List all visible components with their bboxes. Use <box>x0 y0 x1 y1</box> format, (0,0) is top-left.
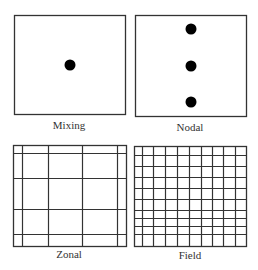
panel-mixing <box>15 16 126 115</box>
mixing-node-dot <box>65 60 76 71</box>
label-mixing: Mixing <box>53 119 86 131</box>
field-box <box>135 147 247 247</box>
nodal-node-dot <box>186 61 197 72</box>
label-zonal: Zonal <box>56 248 82 260</box>
diagram-canvas: Mixing Nodal Zonal Field <box>0 0 258 270</box>
panel-zonal <box>14 146 127 247</box>
panel-field <box>135 147 247 247</box>
label-nodal: Nodal <box>177 121 204 133</box>
label-field: Field <box>179 249 202 261</box>
zonal-box <box>14 146 127 247</box>
nodal-node-dot <box>186 97 197 108</box>
nodal-node-dot <box>186 24 197 35</box>
panel-nodal <box>136 16 247 117</box>
